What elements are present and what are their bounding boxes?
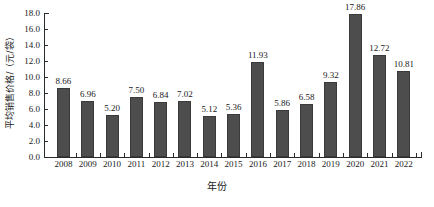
bar-value-label: 6.58 [299, 93, 315, 102]
bar-chart: 平均销售价格/（元/袋） 0.02.04.06.08.010.012.014.0… [0, 0, 434, 207]
x-axis-tick-label: 2013 [176, 160, 194, 169]
x-axis-tick-label: 2015 [225, 160, 243, 169]
y-axis-tick-label: 8.0 [29, 89, 40, 98]
x-axis-tick [173, 153, 174, 157]
x-axis-tick-label: 2012 [152, 160, 170, 169]
bar-value-label: 9.32 [323, 71, 339, 80]
x-axis-tick [124, 153, 125, 157]
y-axis-tick-label: 2.0 [29, 137, 40, 146]
x-axis-tick-label: 2010 [103, 160, 121, 169]
x-axis-tick [367, 153, 368, 157]
y-axis-tick-label: 10.0 [24, 73, 40, 82]
y-axis-tick [45, 29, 48, 30]
bar-value-label: 7.02 [177, 90, 193, 99]
x-axis-tick [246, 153, 247, 157]
y-axis-tick [45, 77, 48, 78]
bar [276, 110, 289, 157]
bar [349, 14, 362, 157]
x-axis-line [44, 157, 422, 158]
bar [154, 102, 167, 157]
y-axis-tick-label: 18.0 [24, 9, 40, 18]
x-axis-tick [221, 153, 222, 157]
y-axis-tick [45, 93, 48, 94]
bar-value-label: 12.72 [369, 44, 389, 53]
x-axis-tick [149, 153, 150, 157]
y-axis-tick-labels: 0.02.04.06.08.010.012.014.016.018.0 [18, 0, 42, 207]
y-axis-tick-label: 14.0 [24, 41, 40, 50]
x-axis-title: 年份 [0, 178, 434, 193]
bar-value-label: 6.84 [153, 91, 169, 100]
x-axis-tick-label: 2020 [346, 160, 364, 169]
bar [324, 82, 337, 157]
x-axis-tick-labels: 2008200920102011201220132014201520162017… [0, 160, 434, 174]
bar-value-label: 5.36 [226, 103, 242, 112]
y-axis-tick [45, 45, 48, 46]
x-axis-tick [416, 153, 417, 157]
x-axis-tick-label: 2022 [395, 160, 413, 169]
y-axis-tick-label: 4.0 [29, 121, 40, 130]
y-axis-tick [45, 13, 48, 14]
x-axis-tick [270, 153, 271, 157]
bar-value-label: 10.81 [394, 60, 414, 69]
y-axis-tick-label: 16.0 [24, 25, 40, 34]
x-axis-tick [100, 153, 101, 157]
bar-value-label: 8.66 [56, 77, 72, 86]
x-axis-tick-label: 2009 [79, 160, 97, 169]
bar [227, 114, 240, 157]
x-axis-tick [392, 153, 393, 157]
bar [397, 71, 410, 157]
bar [251, 62, 264, 157]
bar [373, 55, 386, 157]
x-axis-tick-label: 2019 [322, 160, 340, 169]
bar [106, 115, 119, 157]
bar-value-label: 11.93 [248, 51, 268, 60]
y-axis-tick [45, 109, 48, 110]
bar-value-label: 5.20 [104, 104, 120, 113]
bar [300, 104, 313, 157]
y-axis-tick [45, 141, 48, 142]
x-axis-tick-label: 2017 [273, 160, 291, 169]
bar-value-label: 6.96 [80, 90, 96, 99]
bar [57, 88, 70, 157]
bar [178, 101, 191, 157]
x-axis-tick [197, 153, 198, 157]
bar-value-label: 7.50 [128, 86, 144, 95]
bar-value-label: 17.86 [345, 3, 365, 12]
y-axis-tick [45, 125, 48, 126]
bar-value-label: 5.86 [274, 99, 290, 108]
x-axis-tick-label: 2008 [54, 160, 72, 169]
bar [81, 101, 94, 157]
bar-value-label: 5.12 [201, 105, 217, 114]
bar [130, 97, 143, 157]
y-axis-tick [45, 61, 48, 62]
y-axis-title: 平均销售价格/（元/袋） [0, 0, 18, 160]
x-axis-tick [319, 153, 320, 157]
x-axis-tick [76, 153, 77, 157]
plot-area: 8.666.965.207.506.847.025.125.3611.935.8… [44, 13, 422, 157]
x-axis-tick-label: 2018 [298, 160, 316, 169]
x-axis-tick [343, 153, 344, 157]
y-axis-tick-label: 6.0 [29, 105, 40, 114]
bar [203, 116, 216, 157]
x-axis-tick-label: 2014 [200, 160, 218, 169]
y-axis-tick-label: 12.0 [24, 57, 40, 66]
y-axis-title-text: 平均销售价格/（元/袋） [3, 32, 16, 128]
x-axis-tick [294, 153, 295, 157]
x-axis-tick-label: 2011 [128, 160, 146, 169]
x-axis-tick-label: 2016 [249, 160, 267, 169]
x-axis-tick-label: 2021 [370, 160, 388, 169]
